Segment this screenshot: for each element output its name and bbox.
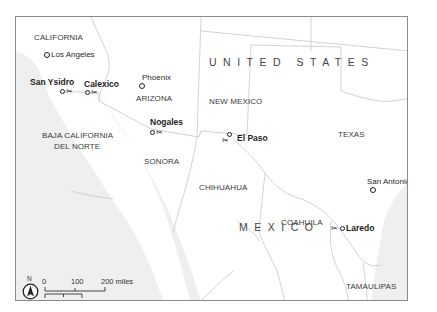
crossing-marker-san-ysidro — [60, 89, 65, 94]
state-label-chihuahua: CHIHUAHUA — [199, 184, 247, 192]
city-marker-phoenix — [139, 83, 145, 89]
country-label-united-states: UNITED STATES — [209, 57, 375, 68]
city-label-san-antonio: San Antonio — [367, 178, 408, 186]
city-label-phoenix: Phoenix — [142, 74, 171, 82]
scale-miles-100: 100 — [71, 278, 84, 286]
state-label-california: CALIFORNIA — [34, 34, 83, 42]
compass-north-label: N — [27, 276, 32, 283]
scissors-icon: ✂ — [91, 89, 98, 97]
state-label-texas: TEXAS — [338, 131, 365, 139]
scale-km-100: 100 — [58, 300, 71, 301]
city-marker-san-antonio — [370, 187, 376, 193]
state-label-new-mexico: NEW MEXICO — [209, 98, 262, 106]
scissors-icon: ✂ — [156, 129, 163, 137]
crossing-label-san-ysidro: San Ysidro — [30, 78, 74, 87]
crossing-marker-calexico — [85, 90, 90, 95]
crossing-marker-laredo — [340, 226, 345, 231]
north-arrow-icon — [22, 283, 39, 300]
scissors-icon: ✂ — [66, 88, 73, 96]
city-marker-los-angeles — [44, 52, 50, 58]
crossing-label-laredo: Laredo — [346, 224, 374, 233]
crossing-label-nogales: Nogales — [150, 118, 183, 127]
state-label-tamaulipas: TAMAULIPAS — [346, 283, 397, 291]
scissors-icon: ✂ — [222, 137, 229, 145]
state-label-baja-california: BAJA CALIFORNIA — [42, 132, 113, 140]
map-frame: UNITED STATES MEXICO CALIFORNIA ARIZONA … — [15, 16, 408, 301]
state-label-del-norte: DEL NORTE — [54, 143, 100, 151]
state-label-arizona: ARIZONA — [136, 95, 172, 103]
scale-bar — [44, 287, 124, 299]
scissors-icon: ✂ — [331, 225, 338, 233]
scale-km-0: 0 — [42, 300, 46, 301]
crossing-label-calexico: Calexico — [84, 80, 119, 89]
crossing-marker-nogales — [150, 130, 155, 135]
state-label-sonora: SONORA — [144, 158, 179, 166]
state-label-coahuila: COAHUILA — [281, 219, 323, 227]
scale-miles-0: 0 — [42, 278, 46, 286]
scale-miles-200: 200 miles — [101, 278, 133, 286]
crossing-label-el-paso: El Paso — [237, 134, 268, 143]
city-label-los-angeles: Los Angeles — [51, 51, 95, 59]
scale-km-200: 200 kilometers — [76, 300, 125, 301]
